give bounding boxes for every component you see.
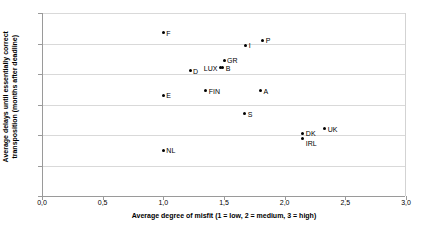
gridline (42, 166, 405, 167)
x-tick-label: 0,0 (22, 199, 62, 206)
gridline (42, 135, 405, 136)
data-point-label: FIN (209, 87, 220, 94)
y-axis-title-line1: Average delays until essentially correct (2, 2, 11, 192)
y-axis-line (42, 13, 43, 196)
y-tick-mark (38, 166, 42, 167)
x-tick-mark (224, 196, 225, 200)
x-tick-label: 3,0 (386, 199, 422, 206)
x-tick-mark (345, 196, 346, 200)
y-axis-title-line2: transposition (months after deadline) (11, 2, 20, 192)
data-point (261, 39, 264, 42)
data-point-label: GR (227, 57, 238, 64)
data-point-label: LUX (204, 64, 218, 71)
data-point-label: P (266, 37, 271, 44)
data-point-label: D (193, 67, 198, 74)
x-tick-label: 2,0 (265, 199, 305, 206)
x-axis-title: Average degree of misfit (1 = low, 2 = m… (42, 212, 406, 219)
data-point (204, 89, 207, 92)
x-tick-mark (285, 196, 286, 200)
data-point-label: B (226, 64, 231, 71)
data-point-label: IRL (306, 140, 317, 147)
data-point-label: UK (328, 125, 338, 132)
gridline (42, 13, 405, 14)
x-tick-mark (42, 196, 43, 200)
data-point-label: DK (306, 130, 316, 137)
gridline (42, 74, 405, 75)
x-tick-label: 1,5 (204, 199, 244, 206)
y-tick-mark (38, 74, 42, 75)
scatter-chart: FENLDFINLUXBGRSIAPDKIRLUK 0102030405060 … (0, 0, 422, 234)
y-tick-mark (38, 13, 42, 14)
data-point-label: A (263, 87, 268, 94)
data-point-label: NL (166, 147, 175, 154)
gridline (42, 105, 405, 106)
y-tick-mark (38, 44, 42, 45)
plot-area: FENLDFINLUXBGRSIAPDKIRLUK (42, 13, 406, 196)
x-tick-mark (406, 196, 407, 200)
y-tick-mark (38, 135, 42, 136)
x-tick-mark (103, 196, 104, 200)
y-tick-mark (38, 105, 42, 106)
data-point-label: S (248, 110, 253, 117)
data-point (162, 31, 165, 34)
data-point (301, 137, 304, 140)
data-point (162, 149, 165, 152)
data-point (189, 69, 192, 72)
y-axis-title: Average delays until essentially correct… (2, 2, 20, 192)
data-point (221, 66, 224, 69)
gridline (42, 44, 405, 45)
data-point (244, 44, 247, 47)
data-point (162, 94, 165, 97)
data-point (323, 127, 326, 130)
x-tick-mark (163, 196, 164, 200)
data-point (223, 59, 226, 62)
x-tick-label: 0,5 (83, 199, 123, 206)
x-tick-label: 1,0 (143, 199, 183, 206)
data-point-label: E (166, 92, 171, 99)
x-tick-label: 2,5 (325, 199, 365, 206)
data-point (259, 89, 262, 92)
data-point-label: I (249, 42, 251, 49)
data-point-label: F (166, 29, 170, 36)
data-point (243, 112, 246, 115)
